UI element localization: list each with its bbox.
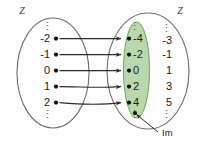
domain-node-dot-2 [54,69,58,73]
mapping-diagram: Z ⋮ -2 -1 0 1 2 ⋮ Z ⋮ -4 -2 0 2 4 [0,0,200,144]
domain-element-1: -1 [40,48,50,60]
image-annotation-anchor-dot [133,111,137,115]
image-element-1: -2 [133,48,143,60]
domain-element-0: -2 [40,32,50,44]
image-node-dot-0 [127,37,131,41]
domain-element-2: 0 [44,64,50,76]
domain-set-ellipse [17,18,89,128]
mapping-arrow-4 [60,103,122,105]
codomain-outside-element-1: -1 [162,48,172,60]
domain-node-dot-3 [54,85,58,89]
domain-node-dot-0 [54,37,58,41]
mapping-arrow-3 [60,87,122,88]
domain-set-label: Z [19,5,25,16]
codomain-outside-element-2: 1 [166,64,172,76]
image-element-2: 0 [133,64,139,76]
image-node-dot-2 [127,69,131,73]
image-node-dot-3 [127,85,131,89]
figure-canvas: Z ⋮ -2 -1 0 1 2 ⋮ Z ⋮ -4 -2 0 2 4 [0,0,200,144]
image-annotation-label: Im [162,127,173,138]
domain-element-4: 2 [44,96,50,108]
image-node-dot-4 [127,101,131,105]
codomain-outside-ellipsis-bottom: ⋮ [161,108,172,120]
image-element-0: -4 [133,32,143,44]
domain-ellipsis-top: ⋮ [42,20,53,32]
domain-node-dot-1 [54,53,58,57]
domain-node-dot-4 [54,101,58,105]
codomain-outside-element-0: -3 [162,34,172,46]
image-node-dot-1 [127,53,131,57]
image-element-4: 4 [133,96,139,108]
domain-ellipsis-bottom: ⋮ [42,108,53,120]
domain-element-3: 1 [44,80,50,92]
codomain-outside-ellipsis-top: ⋮ [161,22,172,34]
image-ellipsis-top: ⋮ [129,20,140,32]
codomain-set-label: Z [177,5,183,16]
image-element-3: 2 [133,80,139,92]
codomain-outside-element-4: 5 [166,96,172,108]
codomain-outside-element-3: 3 [166,80,172,92]
